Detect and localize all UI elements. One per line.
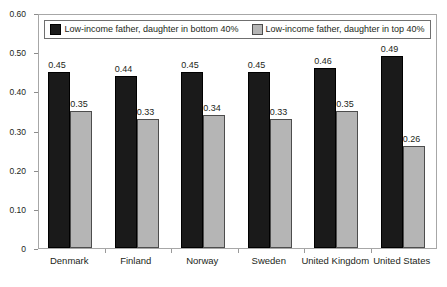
bar-chart: 00.100.200.300.400.500.60 Low-income fat… (0, 0, 447, 287)
x-axis-label: Denmark (50, 255, 89, 267)
y-axis: 00.100.200.300.400.500.60 (0, 0, 32, 287)
x-tick-mark (105, 249, 106, 253)
x-axis-label: United Kingdom (301, 255, 369, 267)
x-tick-mark (238, 249, 239, 253)
legend-label-series-a: Low-income father, daughter in bottom 40… (64, 25, 238, 34)
bar-group: 0.490.26 (39, 15, 438, 248)
x-axis-label: Norway (186, 255, 218, 267)
y-tick-label: 0 (21, 245, 26, 254)
y-tick-label: 0.40 (9, 88, 26, 97)
x-axis-label: Sweden (252, 255, 286, 267)
x-tick-mark (371, 249, 372, 253)
bars-layer: 0.450.350.440.330.450.340.450.330.460.35… (39, 15, 436, 248)
x-axis: DenmarkFinlandNorwaySwedenUnited Kingdom… (38, 255, 437, 271)
legend-swatch-series-a (50, 24, 61, 35)
plot-area: Low-income father, daughter in bottom 40… (38, 14, 437, 249)
y-tick-label: 0.60 (9, 10, 26, 19)
x-tick-mark (304, 249, 305, 253)
legend-label-series-b: Low-income father, daughter in top 40% (266, 25, 425, 34)
legend-entry: Low-income father, daughter in top 40% (252, 24, 425, 35)
bar-value-label: 0.26 (403, 135, 421, 144)
chart-legend: Low-income father, daughter in bottom 40… (44, 20, 431, 39)
x-axis-label: United States (373, 255, 430, 267)
bar-value-label: 0.49 (381, 45, 399, 54)
y-tick-label: 0.10 (9, 206, 26, 215)
x-axis-ticks (38, 249, 437, 253)
x-tick-mark (171, 249, 172, 253)
legend-swatch-series-b (252, 24, 263, 35)
y-tick-label: 0.50 (9, 49, 26, 58)
x-axis-label: Finland (120, 255, 151, 267)
bar (381, 56, 403, 248)
bar (403, 146, 425, 248)
legend-entry: Low-income father, daughter in bottom 40… (50, 24, 238, 35)
y-tick-label: 0.20 (9, 166, 26, 175)
y-tick-label: 0.30 (9, 127, 26, 136)
